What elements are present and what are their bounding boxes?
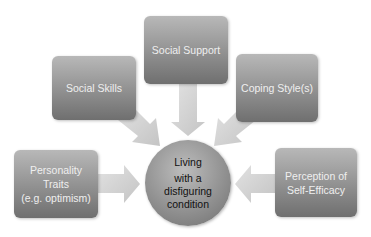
arrow-social-support	[171, 84, 205, 136]
factor-social-support: Social Support	[144, 16, 228, 84]
factor-personality-traits: Personality Traits (e.g. optimism)	[14, 150, 98, 218]
factor-label: Social Skills	[66, 81, 122, 95]
factor-coping-style: Coping Style(s)	[236, 54, 318, 122]
factor-label-line-3: (e.g. optimism)	[21, 191, 90, 205]
arrow-self-efficacy	[235, 165, 275, 203]
factor-label-line-1: Personality	[30, 163, 82, 177]
factor-label-line-2: Traits	[43, 177, 69, 191]
factor-social-skills: Social Skills	[52, 56, 136, 120]
factor-label-line-1: Perception of	[285, 169, 347, 183]
factor-label: Social Support	[152, 43, 220, 57]
center-label-line-4: condition	[167, 198, 209, 211]
center-label-line-1: Living	[174, 156, 201, 169]
factor-label: Coping Style(s)	[241, 81, 313, 95]
center-node: Living with a disfiguring condition	[145, 140, 231, 226]
factor-self-efficacy: Perception of Self-Efficacy	[275, 148, 357, 217]
factor-label-line-2: Self-Efficacy	[287, 183, 345, 197]
center-label-line-2: with a	[174, 172, 201, 185]
arrow-personality	[98, 165, 140, 203]
center-label-line-3: disfiguring	[164, 185, 212, 198]
